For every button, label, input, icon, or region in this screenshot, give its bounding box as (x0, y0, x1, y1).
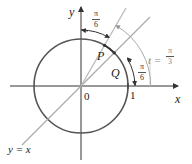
angle-right-den: 6 (140, 74, 144, 82)
point-q-label: Q (111, 67, 120, 79)
angle-top-arc (81, 30, 109, 38)
angle-top-num: π (94, 10, 98, 18)
t-den: 3 (168, 58, 172, 66)
t-num: π (168, 47, 172, 55)
angle-right-fraction: π 6 (138, 63, 146, 82)
arc-pq (105, 45, 115, 53)
line-label: y = x (8, 144, 31, 155)
angle-right-tick-bottom (135, 80, 136, 85)
t-fraction: π 3 (166, 47, 174, 66)
angle-top-fraction: π 6 (92, 10, 100, 29)
y-axis-label: y (69, 6, 74, 18)
origin-label: 0 (84, 91, 90, 102)
point-p-label: P (97, 50, 104, 62)
angle-right-num: π (140, 63, 144, 71)
one-label: 1 (130, 90, 136, 101)
t-label: t = (148, 55, 161, 66)
point-q (113, 51, 116, 54)
point-p (103, 44, 106, 47)
angle-top-den: 6 (94, 21, 98, 29)
line-y-equals-x (22, 17, 150, 145)
x-axis-label: x (175, 93, 180, 105)
